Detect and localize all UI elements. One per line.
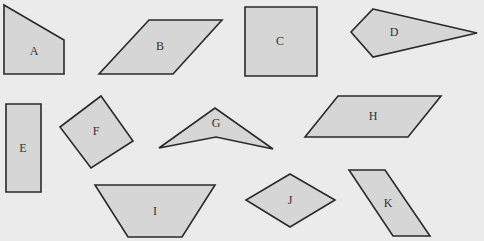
shape-k: K: [349, 170, 430, 236]
shape-i-label: I: [153, 204, 157, 218]
shape-b-label: B: [156, 39, 164, 53]
shape-k-label: K: [384, 196, 393, 210]
shape-h-label: H: [369, 109, 378, 123]
shape-a: A: [4, 5, 64, 74]
shape-d-label: D: [390, 25, 399, 39]
shape-e-label: E: [19, 141, 26, 155]
shape-a-polygon: [4, 5, 64, 74]
shape-d: D: [351, 9, 477, 57]
shape-f: F: [60, 96, 133, 168]
shape-g-label: G: [212, 116, 221, 130]
shape-j-label: J: [288, 193, 293, 207]
shape-j: J: [246, 174, 335, 227]
shape-d-polygon: [351, 9, 477, 57]
shapes-diagram: A B C D E F G H I J K: [0, 0, 484, 241]
shape-b: B: [99, 20, 222, 74]
shape-g: G: [159, 108, 273, 149]
shape-a-label: A: [30, 44, 39, 58]
shape-c: C: [245, 7, 317, 76]
shape-e: E: [6, 104, 41, 192]
shape-i: I: [95, 185, 215, 237]
shape-c-label: C: [276, 34, 284, 48]
shape-f-label: F: [93, 124, 100, 138]
shape-h: H: [305, 96, 441, 137]
